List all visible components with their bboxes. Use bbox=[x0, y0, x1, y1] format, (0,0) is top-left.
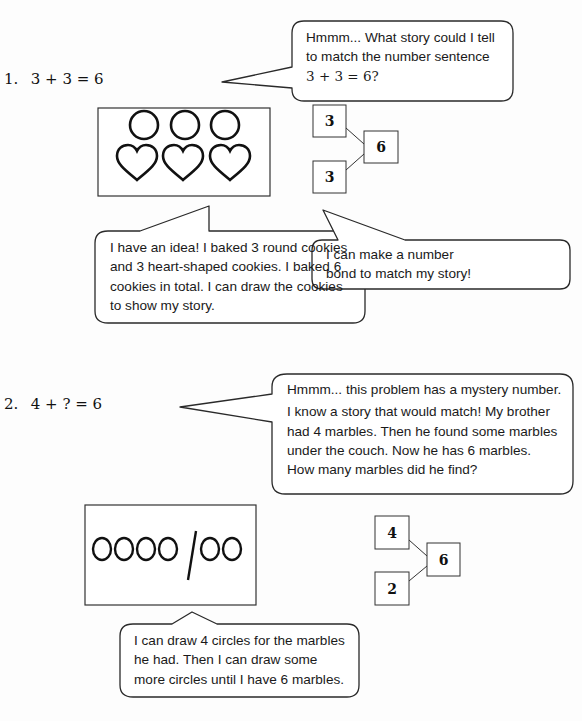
bond-1-part1: 3 bbox=[313, 105, 346, 137]
story-bubble-2: I can draw 4 circles for the marbles he … bbox=[134, 631, 345, 689]
bond-2-part2: 2 bbox=[375, 572, 409, 605]
thought-bubble-2: Hmmm... this problem has a mystery numbe… bbox=[287, 380, 561, 479]
bubble-line: How many marbles did he find? bbox=[287, 460, 561, 479]
bond-2-part1: 4 bbox=[375, 516, 409, 549]
bubble-line: more circles until I have 6 marbles. bbox=[134, 670, 345, 689]
bubble-line: and 3 heart-shaped cookies. I baked 6 bbox=[110, 257, 347, 276]
bubble-line: cookies in total. I can draw the cookies bbox=[110, 277, 347, 296]
problem-2-heading: 2. 4 + ? = 6 bbox=[4, 395, 102, 413]
bubble-line: had 4 marbles. Then he found some marble… bbox=[287, 422, 561, 441]
problem-1-heading: 1. 3 + 3 = 6 bbox=[4, 70, 104, 88]
bubble-line: I can draw 4 circles for the marbles bbox=[134, 631, 345, 650]
bubble-line: bond to match my story! bbox=[326, 264, 471, 283]
worksheet-drawings bbox=[0, 0, 582, 721]
bond-1-part2: 3 bbox=[313, 161, 346, 193]
bubble-line: Hmmm... this problem has a mystery numbe… bbox=[287, 380, 561, 399]
bubble-line: to show my story. bbox=[110, 296, 347, 315]
bubble-line: I have an idea! I baked 3 round cookies bbox=[110, 238, 347, 257]
problem-number: 1. bbox=[4, 70, 26, 88]
cookie-drawing bbox=[98, 108, 270, 196]
bond-1-whole: 6 bbox=[364, 131, 398, 163]
bubble-line: under the couch. Now he has 6 marbles. bbox=[287, 441, 561, 460]
bubble-line: Hmmm... What story could I tell bbox=[306, 28, 495, 47]
thought-bubble-1: Hmmm... What story could I tell to match… bbox=[306, 28, 495, 86]
bubble-line: to match the number sentence bbox=[306, 47, 495, 66]
bond-bubble-1: I can make a number bond to match my sto… bbox=[326, 245, 471, 284]
bond-2-whole: 6 bbox=[427, 543, 460, 576]
problem-number: 2. bbox=[4, 395, 26, 413]
equation: 4 + ? = 6 bbox=[31, 395, 102, 413]
marbles-drawing bbox=[85, 505, 256, 605]
bubble-line: I can make a number bbox=[326, 245, 471, 264]
bubble-line: I know a story that would match! My brot… bbox=[287, 402, 561, 421]
equation: 3 + 3 = 6 bbox=[31, 70, 104, 88]
story-bubble-1: I have an idea! I baked 3 round cookies … bbox=[110, 238, 347, 315]
bubble-line: 3 + 3 = 6? bbox=[306, 67, 495, 86]
bubble-line: he had. Then I can draw some bbox=[134, 650, 345, 669]
